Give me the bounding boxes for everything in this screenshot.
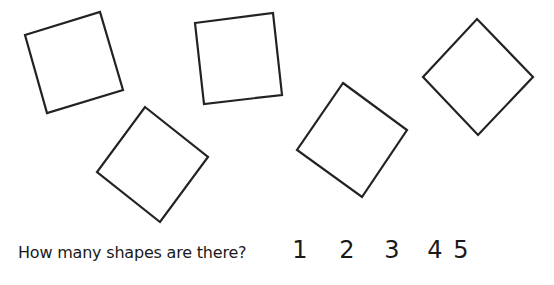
answer-option-3[interactable]: 3 — [382, 236, 402, 264]
answer-option-2[interactable]: 2 — [337, 236, 357, 264]
square-shape — [25, 12, 123, 113]
square-shape — [297, 83, 407, 197]
square-shape — [195, 13, 282, 104]
square-shape — [97, 107, 208, 222]
square-shape — [423, 19, 533, 135]
question-text: How many shapes are there? — [18, 243, 246, 262]
answer-option-5[interactable]: 5 — [451, 236, 471, 264]
answer-option-4[interactable]: 4 — [425, 236, 445, 264]
shapes-canvas — [0, 0, 554, 230]
answer-option-1[interactable]: 1 — [290, 236, 310, 264]
